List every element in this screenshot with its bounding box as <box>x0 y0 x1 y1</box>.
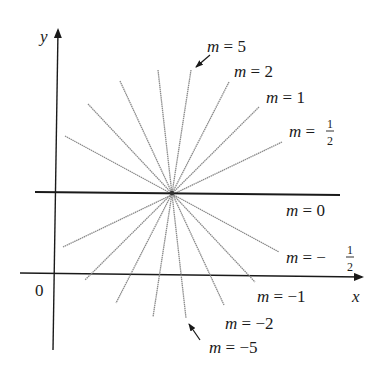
axes <box>20 30 362 350</box>
svg-text:2: 2 <box>347 260 353 274</box>
label-m-neg2: m = −2 <box>225 314 273 333</box>
label-m1: m = 1 <box>266 88 305 107</box>
label-m-neg5: m = −5 <box>209 338 257 357</box>
label-m-neg1: m = −1 <box>257 287 305 306</box>
svg-text:1: 1 <box>347 243 353 257</box>
svg-text:m = −: m = − <box>286 248 330 267</box>
slope-family-diagram: y x 0 m = 5 m = 2 m = 1 m = 1 2 m = 0 m … <box>0 0 382 372</box>
svg-text:m =: m = <box>289 122 319 141</box>
label-m5: m = 5 <box>207 37 246 56</box>
label-m-half: m = 1 2 <box>289 117 334 148</box>
y-axis-label: y <box>38 27 48 46</box>
center-point <box>170 191 174 195</box>
label-m2: m = 2 <box>234 62 273 81</box>
pointer-arrow-m-neg5 <box>189 324 200 340</box>
svg-text:1: 1 <box>327 117 333 131</box>
label-m-neg-half: m = − 1 2 <box>286 243 354 274</box>
line-m-0 <box>35 192 340 195</box>
origin-label: 0 <box>35 281 44 300</box>
x-axis <box>20 273 362 277</box>
pointer-arrow-m5 <box>196 55 210 67</box>
y-axis <box>53 30 58 350</box>
x-axis-label: x <box>351 287 360 306</box>
label-m0: m = 0 <box>286 201 325 220</box>
svg-text:2: 2 <box>327 134 333 148</box>
